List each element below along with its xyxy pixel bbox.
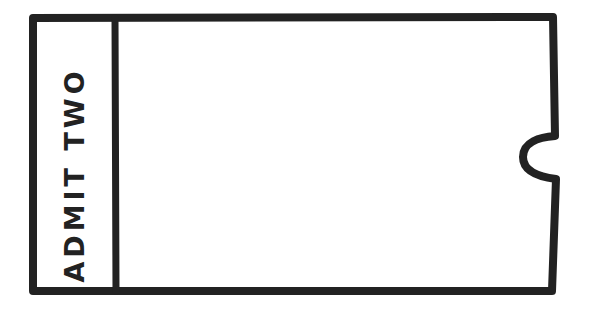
ticket-body	[120, 22, 518, 287]
admit-two-label: ADMIT TWO	[61, 67, 88, 282]
stub-divider	[115, 18, 116, 291]
admission-ticket: ADMIT TWO	[0, 0, 589, 310]
